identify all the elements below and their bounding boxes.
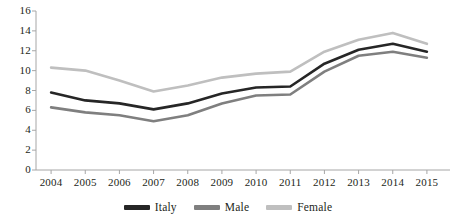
chart-legend: ItalyMaleFemale	[0, 197, 456, 217]
y-tick-label: 8	[5, 85, 31, 96]
legend-label: Female	[297, 201, 332, 213]
y-tick-label: 10	[5, 65, 31, 76]
legend-entry-female[interactable]: Female	[266, 201, 332, 213]
legend-entry-italy[interactable]: Italy	[124, 201, 177, 213]
y-tick-label: 16	[5, 5, 31, 16]
y-tick-label: 14	[5, 25, 31, 36]
x-axis-tick-labels: 2004200520062007200820092010201120122013…	[0, 174, 456, 192]
series-lines	[51, 33, 427, 121]
legend-label: Italy	[155, 201, 177, 213]
legend-swatch-icon	[266, 205, 292, 210]
series-line-female	[51, 33, 427, 92]
series-line-male	[51, 52, 427, 122]
legend-swatch-icon	[124, 205, 150, 210]
y-tick-label: 6	[5, 104, 31, 115]
legend-label: Male	[225, 201, 249, 213]
line-chart: 0246810121416 20042005200620072008200920…	[0, 0, 456, 224]
y-tick-label: 12	[5, 45, 31, 56]
y-tick-label: 2	[5, 144, 31, 155]
legend-swatch-icon	[194, 205, 220, 210]
x-tick-label: 2015	[407, 176, 447, 188]
axes	[32, 11, 450, 174]
y-tick-label: 4	[5, 124, 31, 135]
legend-entry-male[interactable]: Male	[194, 201, 249, 213]
